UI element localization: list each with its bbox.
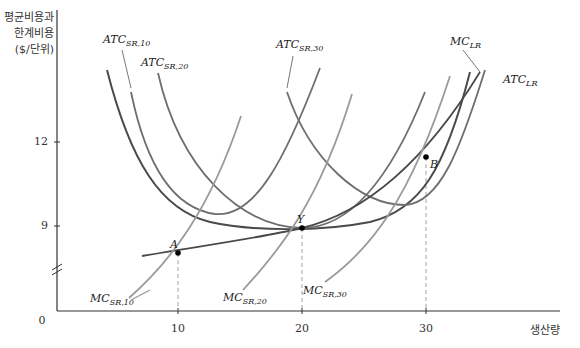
point-y-label: Y — [297, 213, 304, 226]
y-tick-label-9: 9 — [18, 219, 48, 232]
label-mc-sr30: MCSR,30 — [303, 284, 347, 299]
label-atc-sr10: ATCSR,10 — [103, 33, 150, 48]
x-axis-label: 생산량 — [530, 321, 560, 337]
label-mc-sr20: MCSR,20 — [223, 291, 267, 306]
point-a-label: A — [170, 238, 178, 251]
point-y-marker — [299, 225, 305, 231]
y-axis-label-line-1: 평균비용과 — [2, 10, 54, 26]
x-tick-label-30: 30 — [411, 322, 441, 335]
y-axis-label: 평균비용과 한계비용 ($/단위) — [2, 10, 54, 58]
point-b-label: B — [430, 158, 438, 171]
label-atc-lr: ATCLR — [503, 73, 537, 88]
y-axis-label-line-2: 한계비용 — [2, 26, 54, 42]
curve-atc-sr10 — [131, 68, 320, 214]
label-mc-sr10: MCSR,10 — [90, 292, 134, 307]
x-tick-label-0: 0 — [32, 314, 52, 327]
leader-atc-sr10 — [122, 50, 131, 88]
point-a-marker — [175, 250, 181, 256]
point-b-marker — [423, 154, 429, 160]
label-atc-sr20: ATCSR,20 — [141, 56, 188, 71]
leader-atc-sr30 — [287, 56, 293, 88]
x-tick-label-20: 20 — [287, 322, 317, 335]
leader-mc-lr — [463, 50, 480, 72]
y-axis-label-line-3: ($/단위) — [2, 42, 54, 58]
label-mc-lr: MCLR — [450, 35, 481, 50]
label-atc-sr30: ATCSR,30 — [276, 38, 323, 53]
x-tick-label-10: 10 — [163, 322, 193, 335]
y-tick-label-12: 12 — [18, 135, 48, 148]
curve-atc-sr20 — [158, 73, 425, 228]
